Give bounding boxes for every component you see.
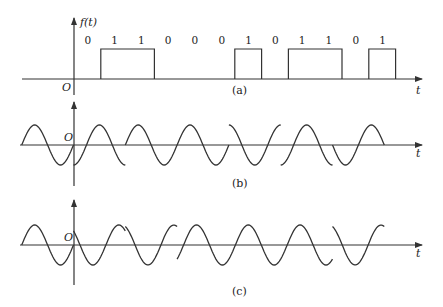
panel-a: f(t) O t (a) 011000101101 bbox=[22, 16, 422, 97]
bit-label: 0 bbox=[84, 34, 91, 46]
bit-label: 1 bbox=[326, 34, 333, 46]
bit-label: 0 bbox=[218, 34, 225, 46]
bit-label: 0 bbox=[192, 34, 199, 46]
modulation-figure: f(t) O t (a) 011000101101 O t (b) O t (c… bbox=[0, 0, 443, 307]
y-axis-label: f(t) bbox=[79, 16, 97, 29]
bit-label: 1 bbox=[299, 34, 306, 46]
bit-label: 1 bbox=[111, 34, 118, 46]
origin-label: O bbox=[64, 231, 73, 244]
panel-b: O t (b) bbox=[20, 102, 422, 190]
panel-caption-a: (a) bbox=[232, 84, 247, 97]
bit-label: 0 bbox=[165, 34, 172, 46]
t-axis-label: t bbox=[416, 247, 421, 260]
t-axis-label: t bbox=[416, 84, 421, 97]
bit-label: 1 bbox=[245, 34, 252, 46]
bit-label: 0 bbox=[352, 34, 359, 46]
t-axis-label: t bbox=[416, 147, 421, 160]
bit-label: 0 bbox=[272, 34, 279, 46]
panel-caption-b: (b) bbox=[232, 177, 248, 190]
origin-label: O bbox=[64, 131, 73, 144]
panel-c: O t (c) bbox=[20, 200, 422, 298]
origin-label: O bbox=[62, 81, 71, 94]
panel-caption-c: (c) bbox=[232, 285, 247, 298]
bit-labels: 011000101101 bbox=[84, 34, 385, 46]
bit-label: 1 bbox=[138, 34, 145, 46]
bit-label: 1 bbox=[379, 34, 386, 46]
binary-pulse-train bbox=[101, 49, 396, 79]
